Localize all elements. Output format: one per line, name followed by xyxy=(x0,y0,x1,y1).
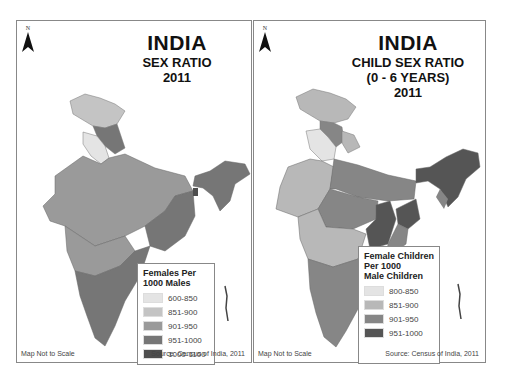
scale-note: Map Not to Scale xyxy=(258,350,312,357)
legend-swatch xyxy=(143,307,163,317)
child-sex-ratio-map-panel: N INDIA CHILD SEX RATIO (0 - 6 YEARS) 20… xyxy=(253,20,486,363)
legend-item: 951-1000 xyxy=(143,333,210,347)
north-arrow: N xyxy=(21,25,35,52)
scale-note: Map Not to Scale xyxy=(21,350,75,357)
legend-swatch xyxy=(143,335,163,345)
legend-item: 600-850 xyxy=(143,291,210,305)
legend-swatch xyxy=(364,300,384,310)
legend-title-2: 1000 Males xyxy=(143,278,210,288)
legend-title-3: Male Children xyxy=(364,271,435,281)
map-subtitle-1: SEX RATIO xyxy=(122,55,232,70)
legend-item: 951-1000 xyxy=(364,326,435,340)
legend-swatch xyxy=(364,314,384,324)
map-subtitle-1: CHILD SEX RATIO xyxy=(344,55,472,70)
legend-item: 901-950 xyxy=(364,312,435,326)
legend-label: 951-1000 xyxy=(168,336,202,345)
source-note: Source: Census of India, 2011 xyxy=(151,350,245,357)
legend-label: 901-950 xyxy=(168,322,197,331)
north-arrow: N xyxy=(258,25,272,52)
legend-item: 851-900 xyxy=(143,305,210,319)
legend: Female Children Per 1000 Male Children 8… xyxy=(358,246,440,364)
legend-item: 800-850 xyxy=(364,284,435,298)
north-arrow-icon xyxy=(22,32,34,52)
north-label: N xyxy=(258,25,272,31)
legend-swatch xyxy=(143,321,163,331)
legend-swatch xyxy=(143,293,163,303)
legend-title-1: Females Per xyxy=(143,268,210,278)
legend-label: 901-950 xyxy=(389,315,418,324)
legend-swatch xyxy=(364,286,384,296)
north-arrow-icon xyxy=(259,32,271,52)
legend-item: 901-950 xyxy=(143,319,210,333)
legend-swatch xyxy=(364,328,384,338)
legend-title-1: Female Children xyxy=(364,251,435,261)
legend-title-2: Per 1000 xyxy=(364,261,435,271)
legend-label: 951-1000 xyxy=(389,329,423,338)
sex-ratio-map-panel: N INDIA SEX RATIO 2011 Females Per 1000 … xyxy=(16,20,252,363)
map-title: INDIA xyxy=(122,31,232,55)
legend-label: 600-850 xyxy=(168,294,197,303)
legend-label: 851-900 xyxy=(168,308,197,317)
legend-label: 851-900 xyxy=(389,301,418,310)
legend-item: 851-900 xyxy=(364,298,435,312)
map-title: INDIA xyxy=(344,31,472,55)
north-label: N xyxy=(21,25,35,31)
legend-label: 800-850 xyxy=(389,287,418,296)
source-note: Source: Census of India, 2011 xyxy=(385,350,479,357)
